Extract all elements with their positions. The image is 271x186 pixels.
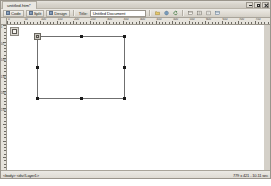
ruler-tick bbox=[4, 144, 6, 145]
resize-handle-se[interactable] bbox=[123, 97, 126, 100]
ruler-tick bbox=[4, 117, 6, 118]
ruler-tick bbox=[103, 22, 104, 24]
ruler-tick bbox=[185, 22, 186, 24]
ruler-tick bbox=[66, 22, 67, 24]
code-view-icon bbox=[6, 11, 10, 15]
ruler-tick bbox=[165, 22, 166, 24]
ruler-tick bbox=[4, 38, 6, 39]
ruler-label: 100 bbox=[41, 18, 46, 21]
ruler-tick bbox=[231, 22, 232, 24]
ruler-tick bbox=[4, 45, 6, 46]
ruler-label: 700 bbox=[239, 18, 244, 21]
ruler-tick bbox=[99, 22, 100, 24]
preview-in-browser-icon[interactable] bbox=[163, 10, 170, 17]
file-management-icon[interactable] bbox=[154, 10, 161, 17]
design-view-icon bbox=[49, 11, 53, 15]
ruler-tick bbox=[80, 22, 81, 24]
ruler-tick bbox=[4, 134, 6, 135]
ruler-label: 550 bbox=[190, 18, 195, 21]
ruler-tick bbox=[228, 22, 229, 24]
ruler-tick bbox=[245, 22, 246, 24]
ruler-tick bbox=[4, 51, 6, 52]
tag-selector[interactable]: <body> <div#Layer1> bbox=[0, 173, 39, 178]
ruler-tick bbox=[159, 22, 160, 24]
ruler-tick bbox=[129, 22, 130, 24]
ruler-tick bbox=[126, 22, 127, 24]
ruler-tick bbox=[3, 141, 6, 142]
ruler-tick bbox=[4, 160, 6, 161]
ruler-tick bbox=[4, 65, 6, 66]
status-bar: <body> <div#Layer1> 779 x 421 - 10.11 se… bbox=[0, 170, 271, 179]
ruler-tick bbox=[142, 22, 143, 24]
validate-markup-icon[interactable] bbox=[205, 10, 212, 17]
refresh-design-view-icon[interactable] bbox=[172, 10, 179, 17]
document-tab[interactable]: untitled.htm* bbox=[2, 1, 37, 9]
ruler-tick bbox=[30, 22, 31, 24]
ruler-tick bbox=[3, 124, 6, 125]
ruler-tick bbox=[47, 22, 48, 24]
code-view-button[interactable]: Code bbox=[3, 10, 24, 17]
ruler-tick bbox=[258, 22, 259, 24]
ruler-tick bbox=[4, 114, 6, 115]
close-button[interactable] bbox=[262, 2, 269, 8]
ruler-label: 500 bbox=[173, 18, 178, 21]
ruler-tick bbox=[4, 131, 6, 132]
ruler-label: 250 bbox=[91, 18, 96, 21]
layer-marker-glyph bbox=[12, 29, 17, 34]
ruler-label: 0 bbox=[1, 26, 3, 29]
ruler-tick bbox=[63, 22, 64, 24]
split-view-button[interactable]: Split bbox=[26, 10, 45, 17]
dreamweaver-document-window: untitled.htm* Code Split Design Title: U… bbox=[0, 0, 271, 186]
resize-handle-ne[interactable] bbox=[123, 35, 126, 38]
resize-handle-w[interactable] bbox=[36, 66, 39, 69]
vertical-ruler[interactable]: 050100150200250 bbox=[0, 25, 7, 170]
layer-drag-handle[interactable] bbox=[34, 33, 41, 40]
ruler-tick bbox=[261, 22, 262, 24]
resize-handle-sw[interactable] bbox=[36, 97, 39, 100]
ruler-label: 300 bbox=[107, 18, 112, 21]
ruler-tick bbox=[149, 22, 150, 24]
resize-handle-s[interactable] bbox=[80, 97, 83, 100]
ruler-tick bbox=[4, 150, 6, 151]
maximize-button[interactable] bbox=[254, 2, 261, 8]
ruler-tick bbox=[4, 78, 6, 79]
design-view-canvas[interactable] bbox=[7, 25, 264, 170]
design-view-button[interactable]: Design bbox=[46, 10, 69, 17]
resize-handle-n[interactable] bbox=[80, 35, 83, 38]
document-size-indicator[interactable]: 779 x 421 - 10.11 sec bbox=[233, 173, 268, 178]
ruler-tick bbox=[43, 22, 44, 24]
ruler-tick bbox=[202, 22, 203, 24]
page-title-input[interactable]: Untitled Document bbox=[90, 10, 146, 17]
page-title-label: Title: bbox=[79, 11, 88, 16]
ruler-tick bbox=[86, 22, 87, 24]
ruler-label: 450 bbox=[157, 18, 162, 21]
ruler-tick bbox=[218, 22, 219, 24]
split-view-label: Split bbox=[34, 11, 42, 16]
ruler-tick bbox=[4, 121, 6, 122]
title-bar: untitled.htm* bbox=[0, 0, 271, 9]
horizontal-ruler[interactable]: 0501001502002503003504004505005506006507… bbox=[7, 18, 271, 25]
ruler-tick bbox=[4, 32, 6, 33]
selected-layer[interactable] bbox=[37, 36, 125, 99]
visual-aids-icon[interactable] bbox=[196, 10, 203, 17]
resize-handle-e[interactable] bbox=[123, 66, 126, 69]
check-browser-support-icon[interactable] bbox=[214, 10, 221, 17]
view-options-icon[interactable] bbox=[187, 10, 194, 17]
ruler-tick bbox=[4, 101, 6, 102]
ruler-tick bbox=[162, 22, 163, 24]
ruler-label: 50 bbox=[1, 43, 4, 46]
minimize-button[interactable] bbox=[246, 2, 253, 8]
ruler-tick bbox=[136, 22, 137, 24]
ruler-tick bbox=[4, 111, 6, 112]
ruler-tick bbox=[93, 22, 94, 24]
ruler-tick bbox=[83, 22, 84, 24]
ruler-tick bbox=[33, 22, 34, 24]
ruler-tick bbox=[76, 22, 77, 24]
ruler-label: 50 bbox=[25, 18, 28, 21]
ruler-tick bbox=[169, 22, 170, 24]
ruler-origin-corner[interactable] bbox=[0, 18, 7, 25]
ruler-tick bbox=[182, 22, 183, 24]
ruler-tick bbox=[53, 22, 54, 24]
layer-marker-icon[interactable] bbox=[10, 27, 19, 36]
ruler-tick bbox=[212, 22, 213, 24]
